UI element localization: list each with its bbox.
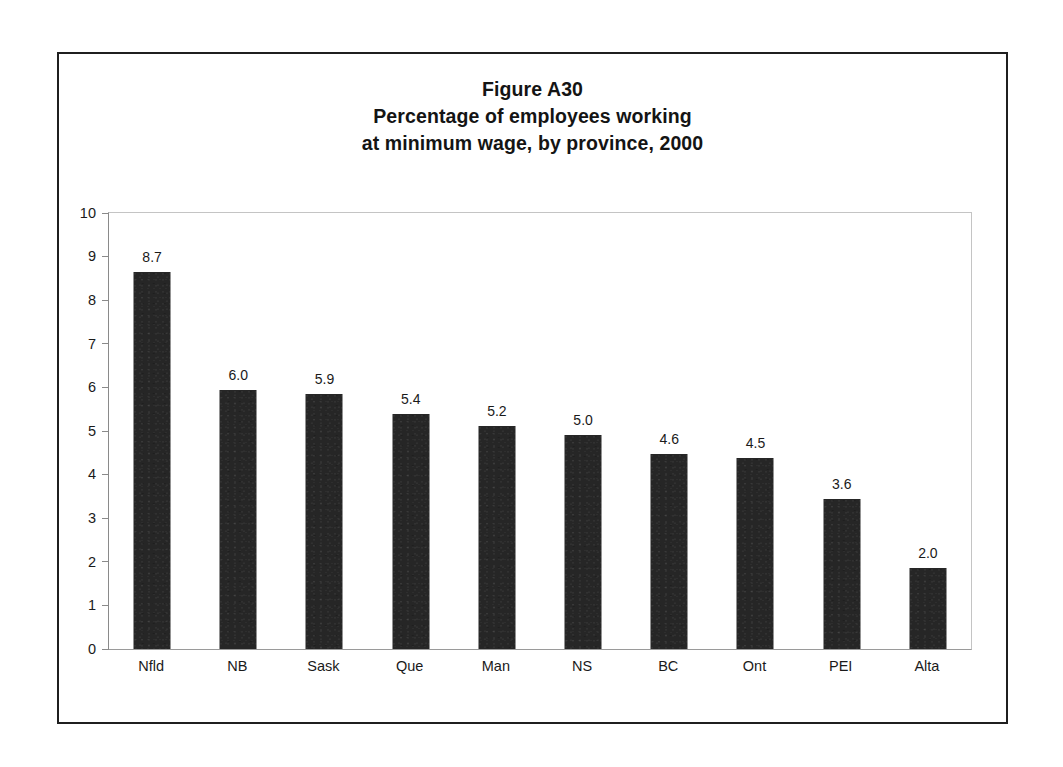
y-axis-tick-mark (102, 605, 109, 606)
bar (823, 499, 860, 649)
x-axis-tick-label: PEI (798, 658, 884, 674)
bar-group: 5.4 (368, 213, 454, 649)
bar-group: 5.9 (281, 213, 367, 649)
bar-group: 4.5 (712, 213, 798, 649)
y-axis-tick-label: 8 (66, 293, 102, 308)
x-axis-tick-label: Alta (884, 658, 970, 674)
bar-value-label: 6.0 (229, 368, 248, 382)
bar-value-label: 8.7 (142, 250, 161, 264)
bar (478, 426, 515, 649)
y-axis-tick-label: 9 (66, 249, 102, 264)
y-axis-tick-mark (102, 343, 109, 344)
bars-layer: 8.76.05.95.45.25.04.64.53.62.0 (109, 213, 971, 649)
y-axis-tick-mark (102, 561, 109, 562)
bar (220, 390, 257, 649)
bar-value-label: 3.6 (832, 477, 851, 491)
bar-value-label: 2.0 (918, 546, 937, 560)
bar-group: 8.7 (109, 213, 195, 649)
y-axis-tick-mark (102, 256, 109, 257)
bar-value-label: 5.9 (315, 372, 334, 386)
bar (565, 435, 602, 649)
title-line-3: at minimum wage, by province, 2000 (59, 130, 1006, 157)
x-axis-tick-label: Man (453, 658, 539, 674)
page-title: Figure A30 Percentage of employees worki… (59, 76, 1006, 157)
bar-value-label: 4.5 (746, 436, 765, 450)
figure-frame: Figure A30 Percentage of employees worki… (57, 52, 1008, 724)
bar (392, 414, 429, 649)
x-axis-tick-label: NB (194, 658, 280, 674)
bar-value-label: 5.2 (487, 404, 506, 418)
y-axis-tick-mark (102, 213, 109, 214)
bar-group: 6.0 (195, 213, 281, 649)
x-axis-tick-label: NS (539, 658, 625, 674)
y-axis-tick-label: 1 (66, 598, 102, 613)
bar-group: 4.6 (626, 213, 712, 649)
bar-group: 5.0 (540, 213, 626, 649)
bar-group: 5.2 (454, 213, 540, 649)
bar (651, 454, 688, 649)
x-axis: NfldNBSaskQueManNSBCOntPEIAlta (108, 658, 972, 688)
x-axis-tick-label: Que (367, 658, 453, 674)
bar-group: 3.6 (799, 213, 885, 649)
bar-value-label: 4.6 (660, 432, 679, 446)
y-axis-tick-label: 0 (66, 642, 102, 657)
bar-value-label: 5.0 (573, 413, 592, 427)
x-axis-tick-label: Sask (280, 658, 366, 674)
title-line-1: Figure A30 (59, 76, 1006, 103)
y-axis-tick-mark (102, 649, 109, 650)
y-axis-tick-mark (102, 431, 109, 432)
y-axis-tick-label: 5 (66, 424, 102, 439)
y-axis-tick-label: 2 (66, 555, 102, 570)
y-axis-tick-mark (102, 387, 109, 388)
x-axis-tick-label: Ont (711, 658, 797, 674)
y-axis-tick-mark (102, 474, 109, 475)
x-axis-tick-label: Nfld (108, 658, 194, 674)
y-axis-tick-label: 3 (66, 511, 102, 526)
y-axis-tick-label: 10 (66, 206, 102, 221)
bar (306, 394, 343, 649)
y-axis-tick-label: 6 (66, 380, 102, 395)
plot-area: 012345678910 8.76.05.95.45.25.04.64.53.6… (108, 212, 972, 650)
y-axis-tick-label: 4 (66, 467, 102, 482)
y-axis-tick-mark (102, 300, 109, 301)
bar-group: 2.0 (885, 213, 971, 649)
bar (134, 272, 171, 649)
title-line-2: Percentage of employees working (59, 103, 1006, 130)
y-axis-tick-mark (102, 518, 109, 519)
y-axis-tick-label: 7 (66, 337, 102, 352)
bar (737, 458, 774, 649)
bar-value-label: 5.4 (401, 392, 420, 406)
x-axis-tick-label: BC (625, 658, 711, 674)
bar (909, 568, 946, 649)
